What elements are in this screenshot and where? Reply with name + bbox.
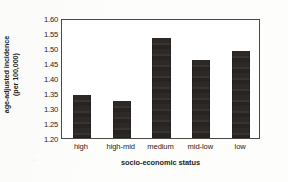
y-tick-label: 1.30 [44,105,58,114]
x-tick-label: low [235,142,246,151]
y-axis-tick-labels: 1.601.551.501.451.401.351.301.251.20 [24,0,58,182]
y-tick-label: 1.20 [44,135,58,144]
y-tick-label: 1.55 [44,30,58,39]
bar-mid-low [192,60,210,138]
x-axis-title: socio-economic status [61,158,260,167]
bar-low [232,51,250,138]
y-axis-title-line2: (per 100,000) [12,36,21,113]
y-tick-label: 1.40 [44,75,58,84]
x-axis-tick-labels: highhigh-midmediummid-lowlow [61,142,260,154]
y-tick-label: 1.35 [44,90,58,99]
bar-high-mid [113,101,131,139]
bar-medium [152,38,170,139]
x-tick-label: high [74,142,88,151]
x-tick-label: medium [147,142,173,151]
x-tick-label: high-mid [107,142,135,151]
y-tick-label: 1.45 [44,60,58,69]
y-tick-label: 1.60 [44,15,58,24]
bar-chart-figure: age-adjusted incidence (per 100,000) 1.6… [0,0,288,182]
y-tick-label: 1.50 [44,45,58,54]
bar-high [73,95,91,139]
plot-area [61,19,260,139]
y-axis-title: age-adjusted incidence (per 100,000) [0,0,24,150]
y-tick-label: 1.25 [44,120,58,129]
x-tick-label: mid-low [188,142,213,151]
